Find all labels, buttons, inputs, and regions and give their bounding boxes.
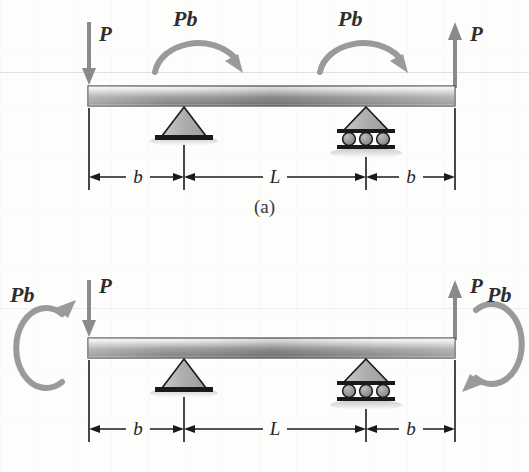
load-arrow-left-down	[82, 280, 96, 337]
figure-a: P P Pb Pb	[0, 0, 529, 236]
label-left-force-b: P	[98, 274, 112, 298]
label-right-force-b: P	[469, 274, 483, 298]
roller-support-a	[330, 107, 402, 158]
label-dim-L-b: L	[269, 418, 281, 439]
roller-circle	[360, 133, 373, 146]
moment-arrow-right-clockwise-a	[320, 43, 408, 73]
beam-b	[88, 338, 455, 358]
label-right-moment-a: Pb	[337, 6, 362, 31]
caption-a: (a)	[0, 196, 529, 218]
pin-support-a	[150, 107, 218, 146]
roller-circle	[377, 133, 390, 146]
roller-circle	[343, 133, 356, 146]
load-arrow-right-up	[448, 280, 462, 340]
moment-arrow-left-clockwise-a	[155, 43, 243, 73]
dimension-b-right-b: b	[366, 418, 455, 439]
load-arrow-right-up	[448, 22, 462, 88]
beam-a	[88, 86, 455, 106]
pin-support-b	[150, 359, 218, 398]
label-dim-b-right-b: b	[406, 418, 416, 439]
dimension-L-b: L	[184, 418, 366, 439]
moment-arrow-left-counterclockwise-b	[16, 300, 76, 388]
label-dim-b-right-a: b	[406, 166, 416, 187]
label-right-force-a: P	[469, 22, 483, 46]
dimension-b-left-a: b	[89, 166, 184, 187]
figure-b: P P Pb Pb	[0, 236, 529, 472]
label-dim-L-a: L	[269, 166, 281, 187]
moment-arrow-right-clockwise-b	[462, 304, 522, 392]
label-dim-b-left-b: b	[133, 418, 143, 439]
roller-support-b	[330, 359, 402, 410]
dimension-L-a: L	[184, 166, 366, 187]
roller-circle	[360, 385, 373, 398]
label-left-moment-b: Pb	[9, 282, 34, 307]
label-right-moment-b: Pb	[486, 282, 511, 307]
roller-circle	[343, 385, 356, 398]
beam-diagram-b: P P Pb Pb	[0, 236, 529, 472]
dimension-b-right-a: b	[366, 166, 455, 187]
label-dim-b-left-a: b	[133, 166, 143, 187]
dimension-b-left-b: b	[89, 418, 184, 439]
label-left-force-a: P	[98, 22, 112, 46]
roller-circle	[377, 385, 390, 398]
label-left-moment-a: Pb	[172, 6, 197, 31]
load-arrow-left-down	[82, 22, 96, 85]
